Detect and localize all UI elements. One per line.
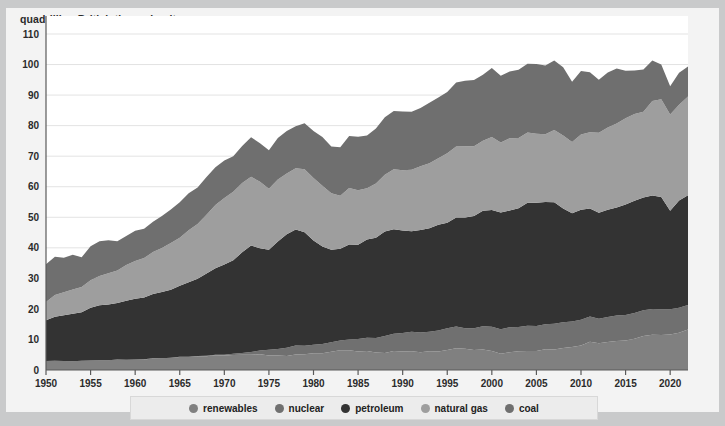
legend-swatch-icon [189,404,198,413]
y-axis-tick-label: 50 [28,212,40,223]
legend-swatch-icon [505,404,514,413]
x-axis-tick-label: 1975 [258,378,281,389]
x-axis-tick-label: 2015 [614,378,637,389]
legend-swatch-icon [421,404,430,413]
legend-item-nuclear[interactable]: nuclear [275,403,325,414]
y-axis-tick-label: 20 [28,304,40,315]
x-axis-tick-label: 2005 [525,378,548,389]
y-axis-tick-label: 110 [23,29,40,40]
legend-swatch-icon [275,404,284,413]
x-axis-tick-label: 1960 [124,378,147,389]
x-axis-tick-label: 1970 [213,378,236,389]
legend-item-petroleum[interactable]: petroleum [341,403,403,414]
legend-item-label: petroleum [355,403,403,414]
y-axis-tick-label: 100 [22,59,39,70]
stacked-area-chart: 0102030405060708090100110195019551960196… [6,8,719,412]
x-axis-tick-label: 1955 [79,378,102,389]
x-axis-tick-label: 1980 [302,378,325,389]
y-axis-tick-label: 60 [28,181,40,192]
chart-legend: renewablesnuclearpetroleumnatural gascoa… [130,396,598,420]
y-axis-tick-label: 40 [28,242,40,253]
y-axis-tick-label: 80 [28,120,40,131]
x-axis-tick-label: 1995 [436,378,459,389]
x-axis-tick-label: 1965 [169,378,192,389]
y-axis-tick-label: 0 [33,365,39,376]
legend-item-coal[interactable]: coal [505,403,539,414]
x-axis-tick-label: 2000 [481,378,504,389]
legend-swatch-icon [341,404,350,413]
plot-area: 0102030405060708090100110195019551960196… [6,8,719,412]
y-axis-tick-label: 10 [28,334,40,345]
x-axis-tick-label: 2020 [659,378,682,389]
legend-item-natural-gas[interactable]: natural gas [421,403,488,414]
x-axis-tick-label: 1950 [35,378,58,389]
legend-item-label: renewables [203,403,257,414]
x-axis-tick-label: 1990 [392,378,415,389]
y-axis-tick-label: 70 [28,151,40,162]
legend-item-label: natural gas [435,403,488,414]
legend-item-label: coal [519,403,539,414]
x-axis-tick-label: 2010 [570,378,593,389]
y-axis-tick-label: 90 [28,90,40,101]
legend-item-label: nuclear [289,403,325,414]
chart-screenshot: quadrillion British thermal units 010203… [0,0,725,426]
x-axis-tick-label: 1985 [347,378,370,389]
y-axis-tick-label: 30 [28,273,40,284]
chart-panel: quadrillion British thermal units 010203… [6,8,719,412]
legend-item-renewables[interactable]: renewables [189,403,257,414]
